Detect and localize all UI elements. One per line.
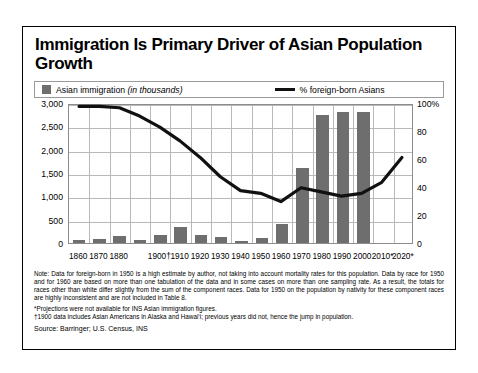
x-tick-label: 1900† [148,251,171,261]
line-series [69,105,412,243]
chart-title: Immigration Is Primary Driver of Asian P… [35,36,445,73]
y-tick-left: 3,000 [29,99,63,109]
x-tick-label: 1960 [272,251,290,261]
y-tick-left: 2,500 [29,122,63,132]
chart-source: Source: Barringer; U.S. Census, INS [34,325,444,332]
x-tick-label: 1930 [211,251,229,261]
x-tick-label: 1940 [231,251,249,261]
y-tick-right: 100% [417,99,451,109]
x-tick-label: 1980 [312,251,330,261]
x-tick-label: 2020* [392,251,414,261]
y-tick-right: 60 [417,155,451,165]
plot-canvas [68,104,413,244]
y-tick-left: 2,000 [29,146,63,156]
y-tick-left: 500 [29,216,63,226]
x-tick-label: 1950 [252,251,270,261]
x-tick-label: 1970 [292,251,310,261]
chart-legend: Asian immigration (in thousands) % forei… [34,81,444,98]
y-tick-right: 0 [417,239,451,249]
note-line-3: †1900 data includes Asian Americans in A… [34,313,444,321]
x-tick-label: 1880 [110,251,128,261]
chart-notes: Note: Data for foreign-born in 1950 is a… [34,270,444,321]
legend-item-foreign-born: % foreign-born Asians [275,85,385,95]
y-tick-right: 40 [417,183,451,193]
y-tick-left: 0 [29,239,63,249]
legend-label-foreign-born: % foreign-born Asians [300,85,385,95]
legend-label-immigration: Asian immigration (in thousands) [56,85,183,95]
chart-figure: Immigration Is Primary Driver of Asian P… [22,26,456,350]
y-tick-right: 20 [417,211,451,221]
x-axis: 1860187018801900†19101920193019401950196… [68,250,413,263]
x-tick-label: 1910 [170,251,188,261]
x-tick-label: 1920 [191,251,209,261]
y-tick-left: 1,000 [29,192,63,202]
x-tick-label: 1990 [333,251,351,261]
y-tick-left: 1,500 [29,169,63,179]
plot-area: 05001,0001,5002,0002,5003,000 0204060801… [23,104,455,250]
x-tick-label: 2010* [372,251,394,261]
legend-swatch-icon [42,85,51,94]
legend-line-icon [275,88,295,92]
x-tick-label: 1860 [69,251,87,261]
legend-item-immigration: Asian immigration (in thousands) [42,85,183,95]
note-line-1: Note: Data for foreign-born in 1950 is a… [34,270,444,302]
note-line-2: *Projections were not available for INS … [34,305,444,313]
x-tick-label: 2000 [353,251,371,261]
y-tick-right: 80 [417,127,451,137]
x-tick-label: 1870 [89,251,107,261]
